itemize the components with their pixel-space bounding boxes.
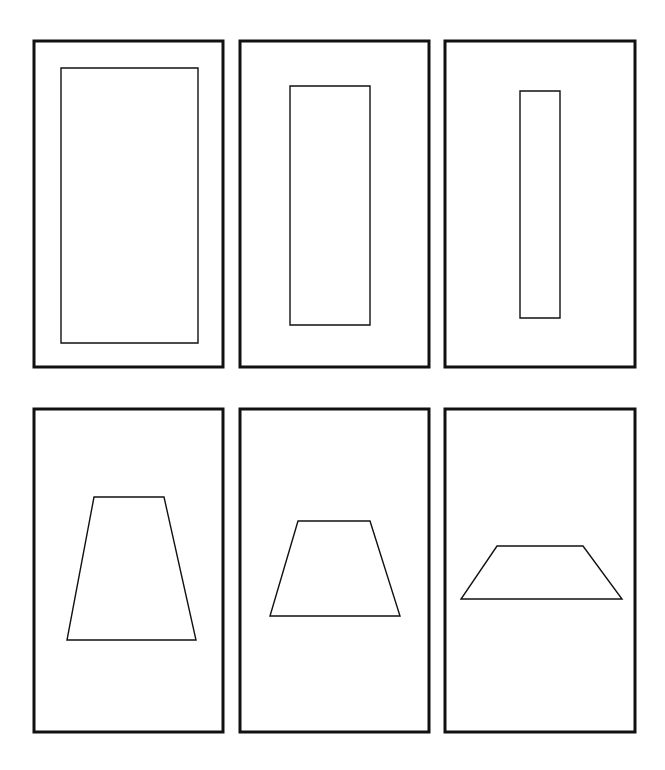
diagram-canvas <box>0 0 665 770</box>
panel-frame <box>445 409 635 732</box>
panel-6 <box>445 409 635 732</box>
panel-frame <box>240 409 429 732</box>
panel-1 <box>34 41 223 367</box>
panel-2 <box>240 41 429 367</box>
panel-grid <box>34 41 635 732</box>
panel-3 <box>445 41 635 367</box>
panel-4 <box>34 409 223 732</box>
panel-frame <box>34 41 223 367</box>
panel-frame <box>240 41 429 367</box>
panel-frame <box>34 409 223 732</box>
panel-5 <box>240 409 429 732</box>
